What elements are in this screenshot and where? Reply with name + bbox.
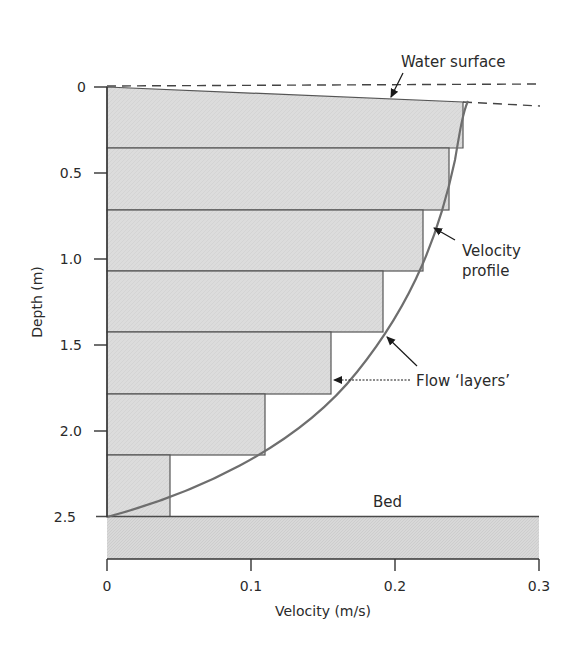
x-tick-label: 0.3 <box>528 578 550 594</box>
x-tick-label: 0.1 <box>240 578 262 594</box>
flow-layer-4 <box>107 271 383 332</box>
y-tick-label: 2.0 <box>60 423 82 439</box>
x-axis-title: Velocity (m/s) <box>275 603 371 619</box>
y-axis: 0 0.5 1.0 1.5 2.0 2.5 Depth (m) <box>29 79 107 525</box>
x-tick-label: 0.2 <box>384 578 406 594</box>
flow-layer-1 <box>107 87 463 148</box>
velocity-profile-arrow <box>434 228 455 240</box>
flow-layer-3 <box>107 210 423 271</box>
flow-layer-6 <box>107 394 265 455</box>
y-axis-title: Depth (m) <box>29 266 45 338</box>
flow-velocity-diagram: 0 0.5 1.0 1.5 2.0 2.5 Depth (m) 0 0.1 0.… <box>0 0 577 653</box>
y-tick-label: 1.0 <box>60 251 82 267</box>
sloped-surface-dashed-line <box>463 102 540 106</box>
x-tick-label: 0 <box>103 578 112 594</box>
x-axis: 0 0.1 0.2 0.3 Velocity (m/s) <box>103 559 551 619</box>
water-surface-dashed-line <box>107 84 540 86</box>
flow-layer-2 <box>107 148 449 210</box>
flow-layers-label: Flow ‘layers’ <box>416 372 510 390</box>
velocity-profile-label: Velocity <box>462 242 521 260</box>
bed-label: Bed <box>373 493 402 511</box>
y-tick-label: 1.5 <box>60 337 82 353</box>
flow-layers-arrow-upper <box>387 337 417 366</box>
y-tick-label: 0 <box>77 79 86 95</box>
water-surface-label: Water surface <box>401 53 506 71</box>
flow-layer-5 <box>107 332 331 394</box>
y-tick-label: 0.5 <box>60 165 82 181</box>
flow-layers <box>107 87 463 517</box>
y-tick-label: 2.5 <box>54 509 76 525</box>
bed-region <box>107 517 539 559</box>
velocity-profile-label-2: profile <box>462 262 509 280</box>
